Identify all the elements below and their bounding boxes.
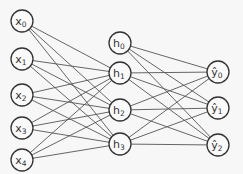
edge-x4-h1: [22, 73, 120, 160]
edge-x1-h3: [22, 59, 120, 144]
edge-x3-h3: [22, 128, 120, 144]
node-h3: h3: [109, 133, 131, 155]
edge-h3-y1: [120, 108, 218, 144]
edge-x2-h1: [22, 73, 120, 95]
edge-x1-h1: [22, 59, 120, 73]
node-x1: x1: [11, 48, 33, 70]
node-y0: ŷ0: [207, 61, 229, 83]
edge-h3-y2: [120, 144, 218, 145]
edge-h0-y0: [120, 43, 218, 72]
edge-h2-y0: [120, 72, 218, 110]
edge-h0-y1: [120, 43, 218, 108]
node-x4: x4: [11, 149, 33, 171]
edge-h2-y2: [120, 110, 218, 145]
node-x3: x3: [11, 117, 33, 139]
edge-h1-y1: [120, 73, 218, 108]
node-h2: h2: [109, 99, 131, 121]
neural-network-diagram: x0x1x2x3x4h0h1h2h3ŷ0ŷ1ŷ2: [0, 0, 243, 174]
node-h1: h1: [109, 62, 131, 84]
node-h0: h0: [109, 32, 131, 54]
node-y2: ŷ2: [207, 134, 229, 156]
edge-x4-h2: [22, 110, 120, 160]
node-x0: x0: [11, 10, 33, 32]
node-y1: ŷ1: [207, 97, 229, 119]
node-x2: x2: [11, 84, 33, 106]
edge-h1-y0: [120, 72, 218, 73]
edge-h0-y2: [120, 43, 218, 145]
